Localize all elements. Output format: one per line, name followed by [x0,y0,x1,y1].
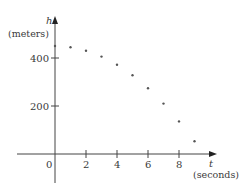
height-vs-time-chart: h (meters) 400 200 0 2 4 6 8 t (seconds) [0,0,245,189]
data-points [54,45,196,143]
data-point [193,140,195,142]
x-tick-label-2: 2 [83,159,89,170]
x-axis-arrow-icon [209,151,217,157]
x-tick-label-6: 6 [145,159,151,170]
data-point [147,87,149,89]
data-point [131,74,133,76]
y-axis-name: h [46,15,52,26]
data-point [162,102,164,104]
data-point [100,55,102,57]
y-tick-label-200: 200 [30,101,49,112]
data-point [54,45,56,47]
y-axis-unit: (meters) [8,28,49,39]
x-tick-label-8: 8 [176,159,182,170]
data-point [178,120,180,122]
origin-label: 0 [46,159,52,170]
data-point [116,63,118,65]
x-tick-label-4: 4 [114,159,120,170]
x-axis-unit: (seconds) [193,169,239,180]
chart-canvas: h (meters) 400 200 0 2 4 6 8 t (seconds) [0,0,245,189]
y-tick-label-400: 400 [30,53,49,64]
data-point [85,50,87,52]
data-point [69,46,71,48]
y-axis-arrow-icon [52,16,58,24]
x-axis-name: t [209,158,214,169]
